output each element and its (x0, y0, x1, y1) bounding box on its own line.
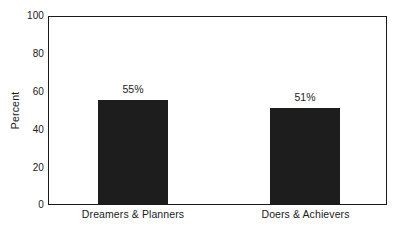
bar-value-dreamers-planners: 55% (98, 84, 168, 95)
y-tick-label-60: 60 (33, 87, 44, 97)
bar-dreamers-planners (98, 100, 168, 204)
bar-doers-achievers (270, 108, 340, 204)
x-axis-label-dreamers-planners: Dreamers & Planners (53, 208, 213, 221)
bar-value-doers-achievers: 51% (270, 92, 340, 103)
y-tick-label-0: 0 (38, 200, 44, 210)
y-tick-label-80: 80 (33, 49, 44, 59)
y-axis-title: Percent (8, 16, 22, 205)
y-tick-label-20: 20 (33, 163, 44, 173)
y-tick-label-100: 100 (27, 11, 44, 21)
y-tick-label-40: 40 (33, 125, 44, 135)
chart-figure: Percent 100 80 60 40 20 0 55% 51% Dreame… (0, 0, 400, 234)
x-axis-label-doers-achievers: Doers & Achievers (228, 208, 383, 221)
